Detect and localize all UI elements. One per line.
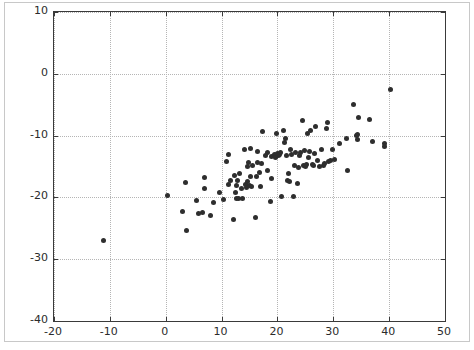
scatter-point xyxy=(245,164,250,169)
gridline-vertical xyxy=(333,12,334,321)
scatter-point xyxy=(283,136,288,141)
scatter-point xyxy=(286,171,291,176)
scatter-point xyxy=(315,158,320,163)
scatter-point xyxy=(258,184,263,189)
x-tick-label: -10 xyxy=(100,326,118,338)
gridline-vertical xyxy=(222,12,223,321)
scatter-point xyxy=(295,181,300,186)
scatter-point xyxy=(325,120,330,125)
y-tick-mark-right xyxy=(441,197,445,198)
scatter-point xyxy=(370,139,375,144)
scatter-point xyxy=(200,210,205,215)
x-tick-mark xyxy=(277,317,278,321)
x-tick-mark xyxy=(110,317,111,321)
x-tick-mark xyxy=(445,317,446,321)
y-tick-label-text: -40 xyxy=(30,314,48,326)
scatter-point xyxy=(235,178,240,183)
scatter-point xyxy=(337,141,342,146)
x-tick-label: -20 xyxy=(44,326,62,338)
y-tick-mark-right xyxy=(441,136,445,137)
y-tick-mark xyxy=(54,259,58,260)
scatter-point xyxy=(287,179,292,184)
scatter-point xyxy=(221,197,226,202)
scatter-point xyxy=(255,149,260,154)
scatter-point xyxy=(304,162,309,167)
scatter-point xyxy=(382,144,387,149)
scatter-point xyxy=(269,176,274,181)
scatter-point xyxy=(202,186,207,191)
scatter-point xyxy=(300,118,305,123)
y-tick-label-text: -10 xyxy=(30,129,48,141)
gridline-horizontal xyxy=(54,259,445,260)
scatter-point xyxy=(265,168,270,173)
scatter-point xyxy=(257,170,262,175)
gridline-horizontal xyxy=(54,12,445,13)
gridline-vertical xyxy=(54,12,55,321)
scatter-point xyxy=(324,126,329,131)
scatter-point xyxy=(184,228,189,233)
scatter-point xyxy=(240,196,245,201)
x-tick-mark-top xyxy=(166,12,167,16)
x-tick-mark xyxy=(166,317,167,321)
x-tick-mark xyxy=(333,317,334,321)
y-tick-mark xyxy=(54,12,58,13)
scatter-point xyxy=(237,171,242,176)
scatter-point xyxy=(224,159,229,164)
scatter-point xyxy=(344,136,349,141)
scatter-point xyxy=(281,128,286,133)
scatter-point xyxy=(302,148,307,153)
scatter-point xyxy=(183,180,188,185)
scatter-point xyxy=(228,178,233,183)
scatter-point xyxy=(355,137,360,142)
x-tick-mark-top xyxy=(222,12,223,16)
y-tick-mark-right xyxy=(441,74,445,75)
x-tick-label: 0 xyxy=(161,326,168,338)
gridline-vertical xyxy=(445,12,446,321)
gridline-vertical xyxy=(166,12,167,321)
y-tick-label-text: 10 xyxy=(34,5,48,17)
scatter-point xyxy=(319,147,324,152)
x-tick-mark-top xyxy=(445,12,446,16)
scatter-point xyxy=(259,161,264,166)
scatter-point xyxy=(367,117,372,122)
x-tick-mark-top xyxy=(277,12,278,16)
x-tick-label: 50 xyxy=(437,326,451,338)
scatter-point xyxy=(279,194,284,199)
x-tick-label: 30 xyxy=(325,326,339,338)
y-tick-mark xyxy=(54,197,58,198)
scatter-point xyxy=(356,115,361,120)
scatter-point xyxy=(282,140,287,145)
x-tick-mark-top xyxy=(110,12,111,16)
gridline-horizontal xyxy=(54,136,445,137)
scatter-point xyxy=(165,193,170,198)
y-tick-mark-right xyxy=(441,12,445,13)
x-tick-label: 40 xyxy=(381,326,395,338)
y-tick-label-text: -20 xyxy=(30,190,48,202)
scatter-point xyxy=(242,147,247,152)
scatter-point xyxy=(250,163,255,168)
gridline-horizontal xyxy=(54,197,445,198)
scatter-point xyxy=(231,217,236,222)
scatter-point xyxy=(268,199,273,204)
scatter-point xyxy=(194,198,199,203)
y-tick-mark xyxy=(54,136,58,137)
scatter-point xyxy=(345,168,350,173)
gridline-vertical xyxy=(110,12,111,321)
scatter-point xyxy=(284,153,289,158)
scatter-point xyxy=(260,129,265,134)
scatter-point xyxy=(388,87,393,92)
scatter-point xyxy=(313,124,318,129)
scatter-point xyxy=(248,174,253,179)
y-tick-mark xyxy=(54,321,58,322)
gridline-horizontal xyxy=(54,321,445,322)
scatter-point xyxy=(233,190,238,195)
y-tick-mark-right xyxy=(441,321,445,322)
gridline-vertical xyxy=(389,12,390,321)
scatter-point xyxy=(249,184,254,189)
scatter-point xyxy=(211,200,216,205)
scatter-point xyxy=(291,194,296,199)
x-tick-mark-top xyxy=(333,12,334,16)
scatter-point xyxy=(332,157,337,162)
scatter-point xyxy=(208,213,213,218)
scatter-point xyxy=(278,150,283,155)
